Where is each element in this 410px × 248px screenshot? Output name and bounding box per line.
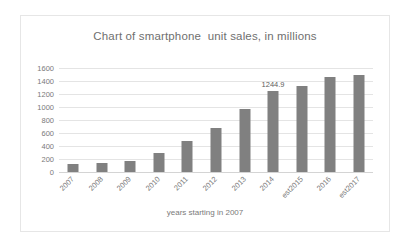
chart-title: Chart of smartphone unit sales, in milli… [21, 30, 389, 42]
bar[interactable] [210, 128, 221, 172]
bar[interactable] [325, 77, 336, 172]
y-axis-tick-label: 0 [50, 168, 54, 177]
y-axis-tick-label: 600 [41, 129, 54, 138]
y-axis-tick-label: 400 [41, 142, 54, 151]
bar-slot: 2010 [145, 68, 174, 172]
bar[interactable] [268, 91, 279, 172]
bar-series: 20072008200920102011201220131244.92014es… [59, 68, 373, 172]
bar[interactable] [296, 86, 307, 172]
y-axis-tick-label: 1400 [37, 77, 54, 86]
plot-area: 16001400120010008006004002000 2007200820… [59, 68, 373, 172]
bar-slot: est2015 [287, 68, 316, 172]
x-axis-title: years starting in 2007 [21, 208, 389, 217]
bar-slot: 2016 [316, 68, 345, 172]
bar[interactable] [182, 141, 193, 172]
bar-slot: 2008 [88, 68, 117, 172]
y-axis-tick-label: 1200 [37, 90, 54, 99]
bar[interactable] [353, 75, 364, 172]
bar-slot: 2012 [202, 68, 231, 172]
y-axis-tick-label: 1600 [37, 64, 54, 73]
y-axis-tick-label: 200 [41, 155, 54, 164]
bar-slot: est2017 [344, 68, 373, 172]
bar-slot: 2011 [173, 68, 202, 172]
bar-slot: 2013 [230, 68, 259, 172]
bar[interactable] [239, 109, 250, 172]
bar-slot: 2007 [59, 68, 88, 172]
bar-value-label: 1244.9 [262, 80, 285, 89]
bar-slot: 1244.92014 [259, 68, 288, 172]
y-axis-tick-label: 1000 [37, 103, 54, 112]
bar-slot: 2009 [116, 68, 145, 172]
y-axis-tick-label: 800 [41, 116, 54, 125]
chart-container: Chart of smartphone unit sales, in milli… [20, 15, 390, 232]
